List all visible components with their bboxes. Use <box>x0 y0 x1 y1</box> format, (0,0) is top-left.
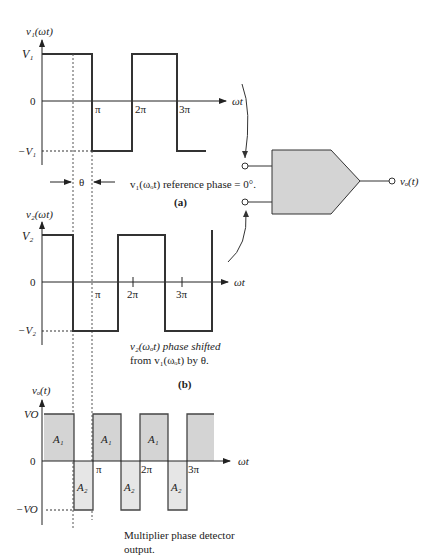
panel-b-caption-line2: from v₁(ωₒt) by θ. <box>130 354 209 367</box>
v2-tick-3pi: 3π <box>176 288 188 300</box>
v1-tick-3pi: 3π <box>179 103 191 115</box>
v1-axis-label: v₁(ωt) <box>26 25 53 38</box>
panel-b-v2-waveform <box>42 222 228 345</box>
area-a1-label-3: A₁ <box>147 433 159 445</box>
vo-top-label: VO <box>24 408 38 420</box>
v2-zero-label: 0 <box>30 276 36 288</box>
area-a1-label-2: A₁ <box>100 433 112 445</box>
vo-axis-label: vₒ(t) <box>32 384 51 397</box>
v1-tick-pi: π <box>95 103 101 115</box>
multiplier-block <box>228 84 395 262</box>
panel-c-caption-line2: output. <box>124 543 155 555</box>
area-a2-label-3: A₂ <box>170 481 182 493</box>
phase-detector-diagram: v₁(ωt) V₁ 0 −V₁ ωt π 2π 3π θ v₁(ωₒt) ref… <box>0 0 445 559</box>
area-a1-label-1: A₁ <box>52 433 64 445</box>
v1-tick-2pi: 2π <box>135 103 147 115</box>
vo-x-axis-label: ωt <box>238 455 250 467</box>
v2-tick-2pi: 2π <box>127 288 139 300</box>
panel-a-caption: v₁(ωₒt) reference phase = 0°. <box>130 178 256 191</box>
panel-b-label: (b) <box>178 378 192 391</box>
vo-tick-3pi: 3π <box>188 463 200 475</box>
v2-tick-pi: π <box>95 288 101 300</box>
v2-top-label: V₂ <box>22 229 34 243</box>
v2-axis-label: v₂(ωt) <box>26 208 53 221</box>
theta-label: θ <box>79 176 84 188</box>
area-a2-label-1: A₂ <box>76 481 88 493</box>
panel-b-caption-line1: v₂(ωₒt) phase shifted <box>130 340 221 353</box>
panel-c-output-waveform <box>42 400 230 525</box>
output-label: vₒ(t) <box>400 175 419 188</box>
area-a2-label-2: A₂ <box>123 481 135 493</box>
v2-bottom-label: −V₂ <box>18 324 36 336</box>
v1-zero-label: 0 <box>30 95 36 107</box>
v1-top-label: V₁ <box>22 47 34 61</box>
panel-a-label: (a) <box>174 196 187 209</box>
vo-bottom-label: −VO <box>16 503 38 515</box>
vo-zero-label: 0 <box>30 455 36 467</box>
vo-tick-2pi: 2π <box>141 463 153 475</box>
v2-x-axis-label: ωt <box>234 276 246 288</box>
v1-x-axis-label: ωt <box>232 95 244 107</box>
vo-tick-pi: π <box>96 463 102 475</box>
panel-c-caption-line1: Multiplier phase detector <box>124 529 235 541</box>
v1-bottom-label: −V₁ <box>18 145 36 157</box>
